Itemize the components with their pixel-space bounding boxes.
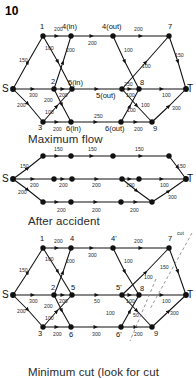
figure-maximum-flow: S T 150 200 200 150 150 150 150 200 200 … [0, 135, 196, 217]
node-label-6in: 6(in) [66, 124, 82, 133]
node-7 [166, 33, 171, 38]
aa-edge-2-4 [54, 248, 71, 295]
mf-flow-4in-4out: 150 [88, 146, 97, 152]
node-label-1: 1 [40, 22, 44, 31]
aa-node-label-2: 2 [51, 283, 55, 292]
aa-node-7 [166, 245, 171, 250]
mf-flow-S-1: 150 [20, 163, 29, 169]
cap-1-4in: 200 [54, 26, 63, 32]
aa-cap-5-5p: 50 [94, 298, 100, 304]
mf-node-3 [40, 199, 45, 204]
mf-node-S [10, 176, 16, 182]
aa-cap-2-5: 200 [59, 298, 68, 304]
node-label-4in: 4(in) [62, 22, 78, 31]
mf-node-6out [118, 199, 123, 204]
aa-node-label-6: 6 [69, 330, 73, 339]
aa-cap-S-2: 300 [29, 298, 38, 304]
aa-cap-5p-7: 100 [144, 274, 153, 280]
mf-edges-group [13, 156, 186, 202]
node-label-4out: 4(out) [102, 22, 122, 31]
aa-cap-S-3: 200 [17, 308, 26, 314]
mf-node-label-T: T [187, 173, 193, 184]
node-label-S: S [2, 83, 9, 94]
aa-cap-6p-8: 100 [106, 310, 115, 316]
mf-node-4out [110, 153, 115, 158]
cap-6out-8: 100 [141, 102, 150, 108]
aa-cap-2-4: 200 [66, 258, 75, 264]
aa-cap-4p-7: 200 [134, 238, 143, 244]
node-S [10, 86, 16, 92]
node-4out [110, 33, 115, 38]
cap-2-5in: 200 [59, 92, 68, 98]
cap-2-4in: 200 [66, 47, 75, 53]
cap-6in-6out: 250 [94, 113, 103, 119]
mf-node-1 [40, 153, 45, 158]
figure-page: 10 [0, 0, 196, 378]
mf-node-2 [51, 176, 56, 181]
aa-edge-S-1 [13, 248, 43, 295]
mf-flow-4out-7: 150 [135, 146, 144, 152]
aa-cap-9-T: 300 [170, 310, 179, 316]
aa-node-labels-group: S 1 2 3 4 4' 5 5' 6 6' 7 8 9 T [2, 234, 193, 339]
aa-node-label-3: 3 [38, 329, 42, 338]
caption-minimum-cut: Minimum cut (look for cut [28, 366, 159, 378]
mf-flow-8-T: 100 [160, 182, 169, 188]
aa-node-2 [51, 292, 56, 297]
mf-flow-6in-6out: 200 [92, 207, 101, 213]
aa-cap-1-4: 200 [54, 238, 63, 244]
mf-flow-3-6in: 200 [57, 207, 66, 213]
edges-group [13, 36, 186, 122]
cap-4out-8: 100 [124, 47, 133, 53]
aa-node-label-7: 7 [168, 234, 172, 243]
aa-cap-4p-8: 100 [124, 258, 133, 264]
node-label-7: 7 [168, 22, 172, 31]
node-label-3: 3 [38, 123, 42, 132]
mf-node-7 [166, 153, 171, 158]
cap-4out-7: 200 [134, 26, 143, 32]
aa-node-6p [118, 324, 123, 329]
aa-node-6 [68, 324, 73, 329]
aa-node-label-S: S [2, 289, 9, 300]
after-accident-svg: S 1 2 3 4 4' 5 5' 6 6' 7 8 9 T 150 300 2… [0, 217, 196, 378]
cap-9-T: 300 [172, 105, 181, 111]
cap-6out-9: 200 [134, 126, 143, 132]
node-4in [68, 33, 73, 38]
cap-8-T: 100 [162, 92, 171, 98]
cap-S-1: 150 [19, 57, 28, 63]
aa-cap-5p-8: 100 [126, 298, 135, 304]
cap-1-5in: 100 [45, 45, 54, 51]
aa-node-label-4: 4 [70, 234, 74, 243]
node-8 [136, 86, 141, 91]
aa-edges-group [13, 248, 186, 327]
edge-7-T [169, 36, 186, 89]
aa-node-5p [119, 292, 124, 297]
node-label-5out: 5(out) [96, 91, 116, 100]
aa-cap-1-5: 100 [45, 256, 54, 262]
mf-node-5in [69, 176, 74, 181]
aa-cap-7-T: 150 [160, 264, 169, 270]
mf-node-8 [136, 176, 141, 181]
aa-cap-6p-9: 200 [134, 331, 143, 337]
aa-node-S [10, 292, 16, 298]
node-label-8: 8 [140, 78, 144, 87]
aa-node-1 [40, 245, 45, 250]
aa-cap-4-4p: 300 [88, 252, 97, 258]
aa-node-label-6p: 6' [116, 330, 122, 339]
mf-flow-6out-9: 200 [130, 207, 139, 213]
aa-node-label-8: 8 [140, 284, 144, 293]
node-label-6out: 6(out) [105, 124, 125, 133]
aa-cap-5p-9: 50 [133, 312, 139, 318]
mf-flow-7-T: 150 [177, 163, 186, 169]
cap-5out-7: 100 [142, 63, 151, 69]
edge-S-1 [13, 36, 43, 89]
mf-flow-1-4in: 150 [54, 146, 63, 152]
mf-node-5out [119, 176, 124, 181]
mf-flow-9-T: 300 [168, 194, 177, 200]
cap-S-3: 200 [17, 102, 26, 108]
node-label-9: 9 [153, 124, 157, 133]
aa-node-label-T: T [187, 289, 193, 300]
aa-node-8 [136, 292, 141, 297]
aa-node-5 [69, 292, 74, 297]
aa-edge-7-T [169, 248, 186, 295]
aa-node-4 [68, 245, 73, 250]
